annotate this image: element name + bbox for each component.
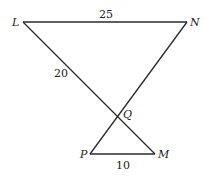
- segment-lm: [23, 22, 155, 154]
- segment-np: [90, 22, 187, 154]
- point-label-m: M: [157, 148, 170, 161]
- point-label-n: N: [189, 16, 200, 29]
- point-label-l: L: [11, 16, 19, 29]
- length-label-pm: 10: [116, 159, 130, 172]
- length-label-lq: 20: [54, 67, 68, 80]
- geometry-diagram: L N Q P M 25 20 10: [0, 0, 207, 176]
- point-label-q: Q: [123, 108, 132, 121]
- point-label-p: P: [79, 148, 88, 161]
- length-label-ln: 25: [99, 8, 113, 21]
